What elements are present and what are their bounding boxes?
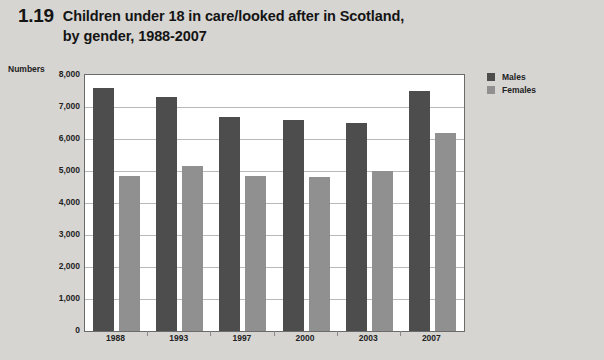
legend-label: Females — [502, 85, 536, 95]
bar-males-1993[interactable] — [156, 97, 177, 331]
x-tick-label-1997: 1997 — [210, 333, 273, 343]
y-tick-label: 2,000 — [4, 261, 80, 271]
x-tick-separator — [147, 331, 148, 336]
y-tick-label: 7,000 — [4, 101, 80, 111]
x-tick-separator — [400, 331, 401, 336]
bar-group — [156, 75, 203, 331]
figure-container: 1.19 Children under 18 in care/looked af… — [0, 0, 604, 360]
bar-females-2007[interactable] — [435, 133, 456, 331]
bar-groups — [85, 75, 464, 331]
y-tick-label: 8,000 — [4, 69, 80, 79]
y-tick-label: 1,000 — [4, 293, 80, 303]
bar-females-1997[interactable] — [245, 176, 266, 331]
x-tick-separator — [337, 331, 338, 336]
bar-males-1997[interactable] — [219, 117, 240, 331]
bar-females-1988[interactable] — [119, 176, 140, 331]
bar-group — [93, 75, 140, 331]
bar-females-1993[interactable] — [182, 166, 203, 331]
bar-males-2003[interactable] — [346, 123, 367, 331]
bar-females-2003[interactable] — [372, 171, 393, 331]
y-axis-tick-labels: 8,0007,0006,0005,0004,0003,0002,0001,000… — [0, 74, 80, 330]
y-tick-label: 3,000 — [4, 229, 80, 239]
legend-item-males[interactable]: Males — [487, 70, 536, 83]
plot-area — [84, 74, 465, 332]
figure-title-block: 1.19 Children under 18 in care/looked af… — [18, 6, 578, 46]
bar-females-2000[interactable] — [309, 177, 330, 331]
x-tick-separator — [274, 331, 275, 336]
bar-group — [219, 75, 266, 331]
bar-group — [346, 75, 393, 331]
bar-males-1988[interactable] — [93, 88, 114, 331]
legend-swatch-males-icon — [487, 73, 495, 81]
title-line-1: Children under 18 in care/looked after i… — [63, 6, 404, 26]
legend-label: Males — [502, 72, 526, 82]
x-tick-label-2003: 2003 — [337, 333, 400, 343]
bar-group — [283, 75, 330, 331]
y-tick-label: 4,000 — [4, 197, 80, 207]
figure-number: 1.19 — [18, 6, 54, 26]
x-tick-label-1993: 1993 — [147, 333, 210, 343]
page-title: Children under 18 in care/looked after i… — [63, 6, 404, 46]
y-tick-label: 5,000 — [4, 165, 80, 175]
x-tick-label-2007: 2007 — [400, 333, 463, 343]
legend-item-females[interactable]: Females — [487, 83, 536, 96]
y-tick-label: 6,000 — [4, 133, 80, 143]
x-tick-label-2000: 2000 — [274, 333, 337, 343]
chart-legend: MalesFemales — [487, 70, 536, 96]
bar-males-2007[interactable] — [409, 91, 430, 331]
bar-males-2000[interactable] — [283, 120, 304, 331]
title-line-2: by gender, 1988-2007 — [63, 26, 404, 46]
y-tick-label: 0 — [4, 325, 80, 335]
x-tick-separator — [210, 331, 211, 336]
x-tick-label-1988: 1988 — [84, 333, 147, 343]
bar-group — [409, 75, 456, 331]
legend-swatch-females-icon — [487, 86, 495, 94]
